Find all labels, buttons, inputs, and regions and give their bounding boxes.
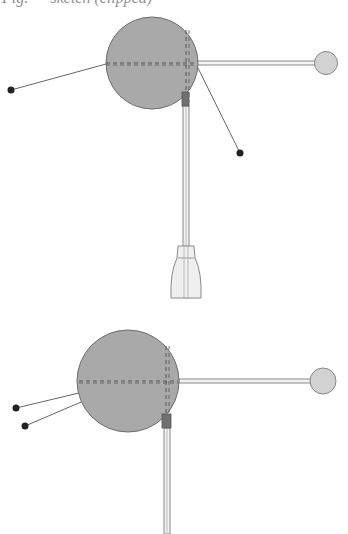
- horizontal-rod: [197, 61, 315, 65]
- end-knob-circle: [315, 52, 338, 75]
- diagram-canvas: [0, 0, 348, 534]
- lead-wire: [197, 66, 240, 153]
- horizontal-rod: [179, 379, 311, 383]
- terminal-dot: [22, 423, 29, 430]
- lead-wire: [16, 393, 79, 408]
- terminal-dot: [13, 405, 20, 412]
- figure-bottom: [13, 330, 337, 534]
- terminal-dot: [8, 87, 15, 94]
- bottle-weight: [171, 246, 201, 298]
- end-knob-circle: [310, 368, 336, 394]
- figure-top: [8, 17, 338, 298]
- terminal-dot: [237, 150, 244, 157]
- mount-block: [182, 92, 189, 106]
- lead-wire: [11, 64, 106, 90]
- mount-block: [162, 414, 171, 428]
